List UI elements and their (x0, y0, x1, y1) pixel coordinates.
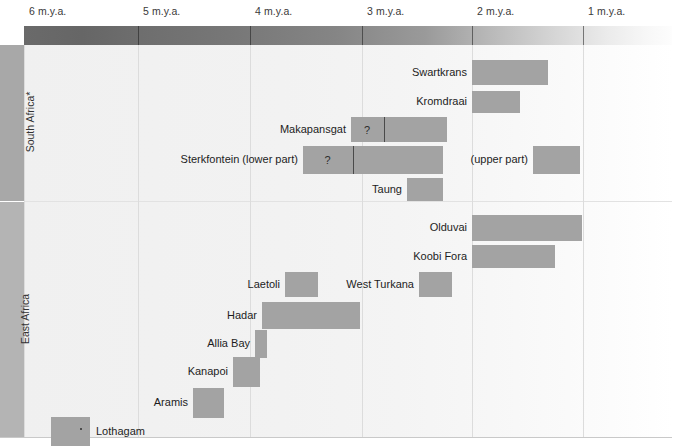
band-tick-5mya (138, 26, 139, 45)
plot-bottom-rule (0, 437, 672, 438)
bar-Kanapoi[interactable] (233, 357, 260, 387)
site-label-Taung: Taung (0, 184, 402, 195)
axis-tick-label-1mya: 1 m.y.a. (588, 5, 625, 17)
axis-tick-label-5mya: 5 m.y.a. (143, 5, 180, 17)
axis-tick-label-6mya: 6 m.y.a. (29, 5, 66, 17)
axis-tick-label-4mya: 4 m.y.a. (255, 5, 292, 17)
bar-Hadar[interactable] (262, 302, 360, 329)
hominid-chronology-figure: 6 m.y.a.5 m.y.a.4 m.y.a.3 m.y.a.2 m.y.a.… (0, 0, 690, 447)
site-label-West-Turkana: West Turkana (0, 279, 414, 290)
site-label-Lothagam: Lothagam (96, 426, 145, 437)
site-label-Koobi-Fora: Koobi Fora (0, 251, 467, 262)
bar-Kromdraai[interactable] (472, 91, 520, 113)
bar-Olduvai[interactable] (472, 215, 582, 241)
uncertainty-marker-Makapansgat: ? (351, 125, 383, 136)
site-label-Sterkfontein-upper: (upper part) (0, 154, 528, 165)
band-tick-2mya (472, 26, 473, 45)
site-label-Kromdraai: Kromdraai (0, 96, 467, 107)
bar-Lothagam[interactable] (51, 417, 90, 446)
site-label-Swartkrans: Swartkrans (0, 67, 467, 78)
bar-Sterkfontein-upper[interactable] (533, 146, 580, 174)
plot-area: South Africa*East AfricaSwartkransKromdr… (0, 45, 690, 438)
site-label-Hadar: Hadar (0, 310, 257, 321)
bar-West-Turkana[interactable] (419, 272, 452, 297)
site-label-Kanapoi: Kanapoi (0, 366, 228, 377)
bar-Taung[interactable] (407, 178, 443, 201)
bar-segment-divider-Makapansgat (384, 117, 385, 142)
band-tick-3mya (362, 26, 363, 45)
time-axis-labels: 6 m.y.a.5 m.y.a.4 m.y.a.3 m.y.a.2 m.y.a.… (0, 0, 690, 24)
bar-Koobi-Fora[interactable] (472, 245, 555, 268)
lothagam-marker-dot (80, 428, 82, 430)
site-label-Makapansgat: Makapansgat (0, 124, 346, 135)
band-tick-4mya (250, 26, 251, 45)
site-label-Olduvai: Olduvai (0, 222, 467, 233)
time-gradient-band (24, 26, 672, 45)
axis-tick-label-2mya: 2 m.y.a. (477, 5, 514, 17)
site-label-Allia-Bay: Allia Bay (0, 338, 250, 349)
bar-Swartkrans[interactable] (472, 60, 548, 85)
bar-Allia-Bay[interactable] (255, 330, 267, 358)
region-section-divider (24, 201, 672, 202)
site-label-Aramis: Aramis (0, 397, 188, 408)
bar-Aramis[interactable] (193, 388, 224, 418)
gridline-1mya (583, 45, 584, 437)
band-tick-1mya (583, 26, 584, 45)
axis-tick-label-3mya: 3 m.y.a. (367, 5, 404, 17)
